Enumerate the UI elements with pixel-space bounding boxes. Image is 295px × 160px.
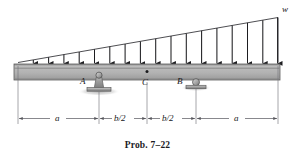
support-a-base-plate: [87, 88, 111, 92]
dimension-label-a-left: a: [55, 113, 60, 123]
support-b-roller-circle: [193, 79, 200, 86]
problem-figure: w A C B: [0, 0, 295, 160]
support-a-label: A: [79, 76, 86, 86]
point-c-marker: [146, 70, 149, 73]
load-arrows: [33, 18, 277, 64]
support-b-label: B: [177, 76, 183, 86]
point-c-label: C: [142, 77, 149, 87]
support-a-pin-circle: [96, 72, 102, 78]
dimension-label-b2-right: b/2: [162, 113, 174, 123]
figure-caption: Prob. 7–22: [125, 140, 171, 150]
beam-diagram: w A C B: [0, 0, 295, 160]
support-b-base-plate: [186, 85, 206, 88]
load-intensity-label: w: [282, 4, 288, 14]
load-profile-line: [18, 18, 278, 63]
dimension-label-a-right: a: [234, 113, 239, 123]
dimension-label-b2-left: b/2: [114, 113, 126, 123]
distributed-load-group: [18, 18, 278, 64]
dimension-labels: a b/2 b/2 a: [50, 112, 245, 123]
